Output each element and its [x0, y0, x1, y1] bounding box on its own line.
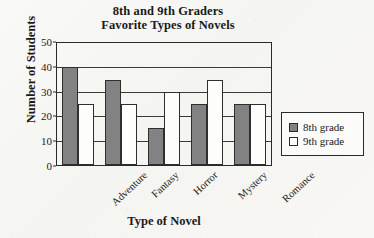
bar-mystery-9th-grade[interactable]: [207, 80, 223, 165]
y-tick-label-10: 10: [12, 136, 52, 147]
legend-swatch-9th-grade-icon: [289, 137, 298, 146]
y-tick-label-20: 20: [12, 111, 52, 122]
bar-group-horror: [143, 43, 186, 165]
y-tick-label-50: 50: [12, 37, 52, 48]
bar-adventure-9th-grade[interactable]: [78, 104, 94, 165]
chart-title-line-1: 8th and 9th Graders: [113, 4, 224, 18]
x-tick-label-horror: Horror: [191, 169, 219, 197]
x-tick-label-romance: Romance: [280, 169, 317, 204]
x-tick-label-adventure: Adventure: [109, 169, 149, 207]
bar-horror-9th-grade[interactable]: [164, 92, 180, 165]
chart-legend: 8th grade 9th grade: [281, 112, 364, 156]
chart-title-line-2: Favorite Types of Novels: [50, 18, 286, 32]
bars-layer: [57, 43, 271, 165]
legend-label-8th-grade: 8th grade: [303, 121, 344, 133]
bar-horror-8th-grade[interactable]: [148, 128, 164, 165]
bar-adventure-8th-grade[interactable]: [62, 67, 78, 165]
bar-chart-figure: 8th and 9th Graders Favorite Types of No…: [0, 0, 374, 238]
chart-title: 8th and 9th Graders Favorite Types of No…: [50, 4, 286, 32]
x-axis-title: Type of Novel: [56, 214, 272, 229]
bar-fantasy-8th-grade[interactable]: [105, 80, 121, 165]
y-axis-tick-labels: 50 40 30 20 10 0: [0, 42, 56, 166]
x-tick-label-fantasy: Fantasy: [149, 169, 180, 199]
legend-item-8th-grade[interactable]: 8th grade: [289, 121, 358, 133]
bar-romance-9th-grade[interactable]: [250, 104, 266, 165]
bar-mystery-8th-grade[interactable]: [191, 104, 207, 165]
bar-group-adventure: [57, 43, 100, 165]
y-tick-label-30: 30: [12, 86, 52, 97]
bar-group-fantasy: [100, 43, 143, 165]
bar-group-mystery: [185, 43, 228, 165]
x-tick-label-mystery: Mystery: [236, 169, 269, 201]
legend-label-9th-grade: 9th grade: [303, 135, 344, 147]
legend-item-9th-grade[interactable]: 9th grade: [289, 135, 358, 147]
bar-fantasy-9th-grade[interactable]: [121, 104, 137, 165]
bar-romance-8th-grade[interactable]: [234, 104, 250, 165]
bar-group-romance: [228, 43, 271, 165]
y-tick-label-40: 40: [12, 61, 52, 72]
y-tick-label-0: 0: [12, 161, 52, 172]
legend-swatch-8th-grade-icon: [289, 123, 298, 132]
plot-area: [56, 42, 272, 166]
x-axis-tick-labels: Adventure Fantasy Horror Mystery Romance: [56, 166, 272, 212]
